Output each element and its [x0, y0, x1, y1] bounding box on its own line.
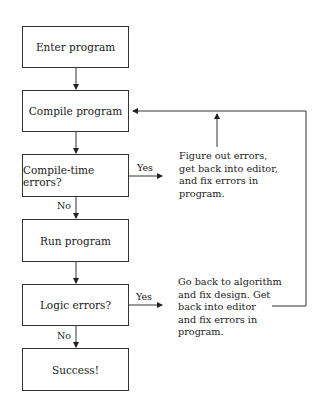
- step-run-program: Run program: [22, 219, 129, 262]
- logic-fix-note: Go back to algorithm and fix design. Get…: [178, 276, 282, 339]
- decision-logic-errors: Logic errors?: [22, 284, 129, 326]
- step-label: Compile program: [29, 105, 122, 117]
- compile-no-label: No: [57, 200, 71, 211]
- step-enter-program: Enter program: [22, 26, 129, 68]
- logic-yes-label: Yes: [136, 291, 152, 302]
- compile-fix-note: Figure out errors, get back into editor,…: [179, 150, 278, 200]
- decision-compile-time-errors: Compile-time errors?: [22, 154, 129, 197]
- step-label: Compile-time errors?: [23, 164, 128, 188]
- compile-yes-label: Yes: [137, 162, 153, 173]
- step-compile-program: Compile program: [22, 90, 129, 132]
- logic-no-label: No: [57, 330, 71, 341]
- step-label: Logic errors?: [40, 299, 111, 311]
- step-label: Success!: [52, 364, 99, 376]
- step-label: Enter program: [36, 41, 115, 53]
- step-success: Success!: [22, 348, 129, 391]
- step-label: Run program: [40, 235, 111, 247]
